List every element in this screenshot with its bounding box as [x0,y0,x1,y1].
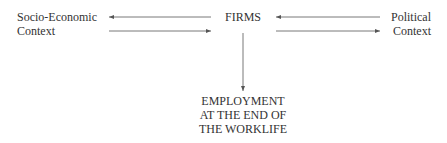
node-employment-end-of-worklife: EMPLOYMENT AT THE END OF THE WORKLIFE [178,94,308,136]
node-label-line: Socio-Economic [17,10,97,24]
node-label-line: Context [17,24,97,38]
node-label-line: AT THE END OF [178,108,308,122]
node-label-line: Context [391,24,431,38]
node-label-line: EMPLOYMENT [178,94,308,108]
node-firms: FIRMS [225,10,261,24]
node-label-line: FIRMS [225,10,261,24]
node-label-line: THE WORKLIFE [178,122,308,136]
node-socio-economic-context: Socio-Economic Context [17,10,97,38]
node-label-line: Political [391,10,431,24]
node-political-context: Political Context [391,10,431,38]
